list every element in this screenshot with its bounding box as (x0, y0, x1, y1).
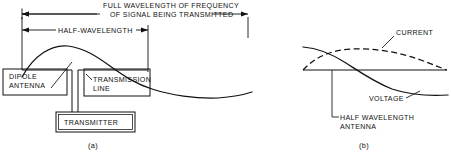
transmission-line-leader (86, 74, 92, 80)
dipole-antenna-leader (51, 62, 72, 88)
transmitter-label: TRANSMITTER (64, 119, 118, 127)
figure-canvas: FULL WAVELENGTH OF FREQUENCY OF SIGNAL B… (0, 0, 451, 159)
half-wavelength-antenna-label-line1: HALF WAVELENGTH (340, 114, 414, 122)
half-wavelength-label: HALF-WAVELENGTH (58, 27, 133, 35)
panel-b: CURRENT VOLTAGE HALF WAVELENGTH ANTENNA … (303, 29, 448, 150)
current-label: CURRENT (396, 29, 433, 37)
antenna-wavelength-figure: FULL WAVELENGTH OF FREQUENCY OF SIGNAL B… (0, 0, 451, 159)
transmitter-box: TRANSMITTER (56, 112, 135, 132)
voltage-curve (303, 47, 448, 95)
voltage-label: VOLTAGE (369, 95, 404, 103)
transmission-line-label-line1: TRANSMISSION (93, 76, 151, 84)
panel-b-caption: (b) (359, 141, 369, 150)
full-wavelength-label-line2: OF SIGNAL BEING TRANSMITTED (110, 11, 233, 19)
dipole-antenna-label-line1: DIPOLE (9, 73, 37, 81)
half-wavelength-antenna-label-line2: ANTENNA (340, 123, 376, 131)
half-wavelength-antenna-leader (332, 70, 339, 117)
dipole-antenna-label-line2: ANTENNA (9, 82, 45, 90)
panel-a-caption: (a) (88, 141, 98, 150)
radiated-wave-curve (22, 46, 252, 98)
panel-a: FULL WAVELENGTH OF FREQUENCY OF SIGNAL B… (3, 0, 252, 150)
transmission-line-label-line2: LINE (93, 85, 110, 93)
current-leader (382, 36, 394, 48)
full-wavelength-label-line1: FULL WAVELENGTH OF FREQUENCY (103, 2, 239, 10)
